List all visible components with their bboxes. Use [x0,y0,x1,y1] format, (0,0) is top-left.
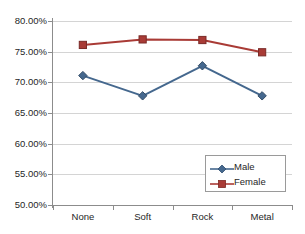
legend-item-female[interactable]: Female [206,174,285,189]
line-chart: 50.00%55.00%60.00%65.00%70.00%75.00%80.0… [0,0,305,234]
data-point-female-soft[interactable] [139,36,146,43]
data-point-female-none[interactable] [79,41,86,48]
legend-marker-female [210,176,234,188]
data-series-layer [0,0,305,234]
data-point-female-rock[interactable] [199,36,206,43]
data-point-male-metal[interactable] [258,92,266,100]
data-point-female-metal[interactable] [259,49,266,56]
data-point-male-rock[interactable] [198,62,206,70]
series-line-male [83,66,262,96]
legend[interactable]: Male Female [205,155,286,192]
legend-item-male[interactable]: Male [206,159,285,174]
data-point-male-soft[interactable] [138,92,146,100]
legend-label-female: Female [234,177,266,187]
legend-label-male: Male [234,162,255,172]
series-line-female [83,39,262,52]
data-point-male-none[interactable] [79,71,87,79]
legend-marker-male [210,161,234,173]
